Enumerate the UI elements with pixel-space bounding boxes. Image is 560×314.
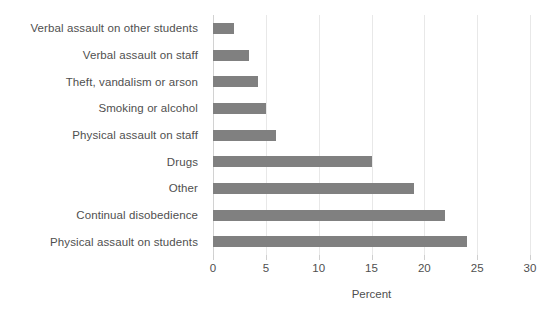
- bar: [213, 23, 234, 34]
- tick-mark-25: [477, 255, 478, 260]
- tick-mark-30: [530, 255, 531, 260]
- gridline-25: [477, 15, 478, 255]
- bar: [213, 50, 249, 61]
- horizontal-bar-chart: Verbal assault on other studentsVerbal a…: [0, 0, 560, 314]
- x-tick-label-0: 0: [193, 262, 233, 274]
- category-label: Verbal assault on staff: [83, 48, 198, 62]
- bar: [213, 210, 445, 221]
- x-tick-label-25: 25: [457, 262, 497, 274]
- tick-mark-0: [213, 255, 214, 260]
- x-tick-label-20: 20: [404, 262, 444, 274]
- bar: [213, 130, 276, 141]
- tick-mark-15: [372, 255, 373, 260]
- category-label: Continual disobedience: [76, 208, 198, 222]
- category-label: Other: [169, 181, 198, 195]
- category-label: Smoking or alcohol: [98, 101, 198, 115]
- bar: [213, 156, 372, 167]
- category-label: Theft, vandalism or arson: [66, 75, 198, 89]
- x-tick-label-30: 30: [510, 262, 550, 274]
- category-label: Drugs: [167, 155, 198, 169]
- gridline-30: [530, 15, 531, 255]
- bar: [213, 236, 467, 247]
- bar: [213, 103, 266, 114]
- x-tick-label-10: 10: [299, 262, 339, 274]
- tick-mark-5: [266, 255, 267, 260]
- tick-mark-20: [424, 255, 425, 260]
- category-axis-labels: Verbal assault on other studentsVerbal a…: [0, 15, 206, 255]
- bar: [213, 76, 258, 87]
- x-tick-label-5: 5: [246, 262, 286, 274]
- category-label: Physical assault on students: [50, 235, 198, 249]
- category-label: Physical assault on staff: [72, 128, 198, 142]
- x-axis: 051015202530: [213, 255, 530, 285]
- bar: [213, 183, 414, 194]
- plot-area: [213, 15, 530, 255]
- x-tick-label-15: 15: [352, 262, 392, 274]
- category-label: Verbal assault on other students: [30, 21, 198, 35]
- x-axis-title: Percent: [213, 288, 530, 300]
- tick-mark-10: [319, 255, 320, 260]
